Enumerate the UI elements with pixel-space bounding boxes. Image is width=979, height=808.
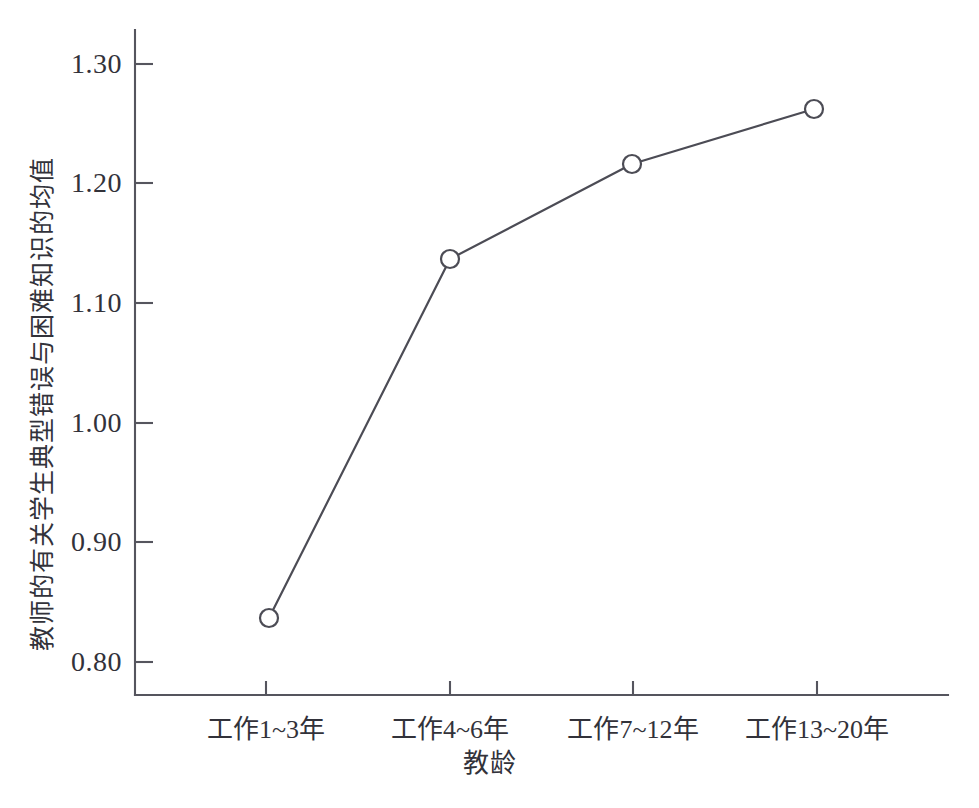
y-tick-label-1.20: 1.20 <box>60 167 122 199</box>
data-point-1 <box>441 250 459 268</box>
y-tick-label-1.30: 1.30 <box>60 48 122 80</box>
y-tick-label-1.00: 1.00 <box>60 407 122 439</box>
data-point-0 <box>260 609 278 627</box>
x-axis-title: 教龄 <box>0 742 979 779</box>
data-point-3 <box>805 100 823 118</box>
figure-container: 教师的有关学生典型错误与困难知识的均值 <box>0 0 979 808</box>
y-tick-label-0.80: 0.80 <box>60 646 122 678</box>
y-tick-label-0.90: 0.90 <box>60 526 122 558</box>
data-markers <box>260 100 823 627</box>
data-line-series-0 <box>269 109 814 618</box>
figure-caption <box>0 790 979 808</box>
y-tick-label-1.10: 1.10 <box>60 287 122 319</box>
x-axis-ticks <box>266 681 817 695</box>
y-axis-ticks <box>135 64 153 662</box>
data-point-2 <box>623 155 641 173</box>
line-chart-plot <box>0 0 979 808</box>
x-tick-label-3: 工作13~20年 <box>707 708 927 745</box>
